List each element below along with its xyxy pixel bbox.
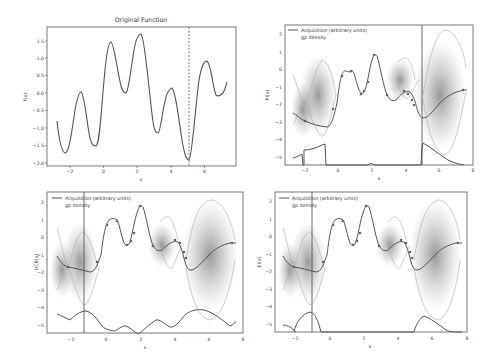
svg-text:2: 2	[136, 169, 139, 174]
y-axis: 2 1 0 −1 −2 −3 −4 −5 UCB(x)	[34, 200, 44, 328]
svg-text:−5: −5	[37, 323, 44, 328]
x-axis: −2 0 2 4 6 8 x	[68, 337, 245, 350]
acquisition-curve	[283, 312, 462, 332]
svg-text:−4: −4	[265, 304, 272, 309]
svg-text:1.5: 1.5	[37, 39, 44, 44]
gp-density	[278, 200, 461, 310]
svg-text:−2: −2	[302, 168, 309, 173]
svg-text:2: 2	[363, 336, 366, 341]
legend-acquisition: Acquisition (arbitrary units)	[292, 196, 358, 201]
svg-text:−3: −3	[265, 287, 272, 292]
legend-acquisition: Acquisition (arbitrary units)	[301, 28, 367, 33]
y-axis-label: UCB(x)	[34, 254, 39, 271]
svg-text:0: 0	[329, 336, 332, 341]
y-axis-label: PI(x)	[265, 89, 270, 100]
y-axis: 1.5 1.0 0.5 0.0 −0.5 −1.0 −1.5 −2.0 f(x)	[23, 39, 47, 166]
legend-gp-density: gp density	[301, 35, 326, 40]
gp-density	[50, 200, 238, 310]
x-axis-label: x	[140, 177, 143, 182]
svg-text:−2: −2	[265, 269, 272, 274]
legend: Acquisition (arbitrary units) gp density	[288, 28, 367, 41]
svg-text:0: 0	[41, 235, 44, 240]
svg-text:−1.5: −1.5	[33, 143, 44, 148]
plot-title: Original Function	[115, 16, 168, 24]
svg-text:−3: −3	[275, 120, 282, 125]
svg-text:2: 2	[371, 168, 374, 173]
svg-text:6: 6	[431, 336, 434, 341]
svg-text:2: 2	[140, 337, 143, 342]
legend-acquisition: Acquisition (arbitrary units)	[65, 196, 131, 201]
gp-density	[291, 40, 466, 150]
x-axis-label: x	[144, 345, 147, 350]
x-axis: −2 0 2 4 6 x	[67, 166, 206, 182]
svg-text:4: 4	[174, 337, 177, 342]
svg-text:2: 2	[269, 199, 272, 204]
function-curve	[57, 34, 227, 160]
svg-text:4: 4	[397, 336, 400, 341]
y-axis-label: EI(x)	[257, 256, 262, 267]
plot-original-function: Original Function 1.5 1.0 0.5 0.0 −0.5 −…	[23, 16, 236, 182]
svg-text:1: 1	[41, 218, 44, 223]
svg-text:0: 0	[105, 337, 108, 342]
x-axis-label: x	[378, 176, 381, 181]
svg-text:0: 0	[279, 67, 282, 72]
legend: Acquisition (arbitrary units) gp density	[279, 196, 358, 209]
y-axis: 2 1 0 −1 −2 −3 −4 −5 EI(x)	[257, 199, 272, 327]
svg-text:−1: −1	[275, 85, 282, 90]
svg-text:−4: −4	[275, 137, 282, 142]
axes-frame	[47, 27, 236, 166]
plot-ucb-acquisition: Acquisition (arbitrary units) gp density…	[34, 192, 245, 350]
svg-text:−4: −4	[37, 305, 44, 310]
svg-text:8: 8	[472, 168, 475, 173]
svg-text:0.0: 0.0	[37, 91, 44, 96]
svg-text:1.0: 1.0	[37, 56, 44, 61]
x-axis-label: x	[369, 344, 372, 349]
svg-text:0: 0	[102, 169, 105, 174]
svg-text:−1: −1	[265, 252, 272, 257]
x-axis: −2 0 2 4 6 8 x	[302, 168, 475, 181]
y-axis-label: f(x)	[23, 93, 28, 101]
svg-text:−2: −2	[292, 336, 299, 341]
svg-text:0.5: 0.5	[37, 73, 44, 78]
svg-text:2: 2	[41, 200, 44, 205]
y-axis: 2 1 0 −1 −2 −3 −4 −5 PI(x)	[265, 32, 282, 160]
svg-text:0: 0	[269, 234, 272, 239]
svg-text:−5: −5	[275, 155, 282, 160]
legend-gp-density: gp density	[292, 203, 317, 208]
plot-pi-acquisition: Acquisition (arbitrary units) gp density…	[265, 25, 475, 181]
svg-text:1: 1	[279, 50, 282, 55]
svg-text:6: 6	[203, 169, 206, 174]
svg-text:−0.5: −0.5	[33, 108, 44, 113]
svg-text:8: 8	[466, 336, 469, 341]
svg-text:−5: −5	[265, 322, 272, 327]
svg-text:1: 1	[269, 217, 272, 222]
svg-text:4: 4	[170, 169, 173, 174]
legend: Acquisition (arbitrary units) gp density	[52, 196, 131, 209]
figure: Original Function 1.5 1.0 0.5 0.0 −0.5 −…	[0, 0, 498, 364]
svg-text:8: 8	[242, 337, 245, 342]
plot-ei-acquisition: Acquisition (arbitrary units) gp density…	[257, 192, 469, 349]
svg-text:6: 6	[438, 168, 441, 173]
svg-text:6: 6	[208, 337, 211, 342]
x-axis: −2 0 2 4 6 8 x	[292, 336, 469, 349]
svg-text:−2: −2	[275, 102, 282, 107]
svg-text:2: 2	[279, 32, 282, 37]
svg-text:4: 4	[405, 168, 408, 173]
svg-text:−1.0: −1.0	[33, 126, 44, 131]
svg-text:−2: −2	[68, 337, 75, 342]
svg-text:−2: −2	[67, 169, 74, 174]
svg-text:0: 0	[337, 168, 340, 173]
svg-text:−3: −3	[37, 288, 44, 293]
svg-text:−2.0: −2.0	[33, 161, 44, 166]
legend-gp-density: gp density	[65, 203, 90, 208]
